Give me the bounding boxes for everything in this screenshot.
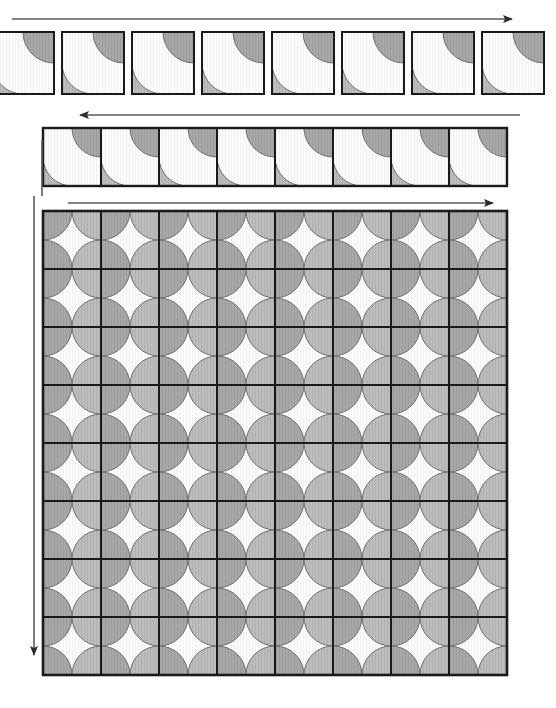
separated-tiles-strip <box>0 32 544 94</box>
truchet-tile <box>412 32 474 94</box>
truchet-tile <box>101 128 159 186</box>
truchet-tile <box>333 128 391 186</box>
truchet-tile <box>0 32 54 94</box>
truchet-tile <box>342 32 404 94</box>
truchet-tile <box>159 128 217 186</box>
truchet-tile <box>272 32 334 94</box>
truchet-tile <box>202 32 264 94</box>
joined-tiles-strip <box>43 128 507 186</box>
truchet-tile <box>43 128 101 186</box>
figure-canvas <box>0 0 556 708</box>
truchet-tile <box>62 32 124 94</box>
tiled-grid <box>14 182 536 704</box>
truchet-tile <box>482 32 544 94</box>
truchet-diagram <box>0 0 556 708</box>
truchet-tile <box>217 128 275 186</box>
truchet-tile <box>275 128 333 186</box>
truchet-tile <box>132 32 194 94</box>
truchet-tile <box>449 128 507 186</box>
truchet-tile <box>391 128 449 186</box>
